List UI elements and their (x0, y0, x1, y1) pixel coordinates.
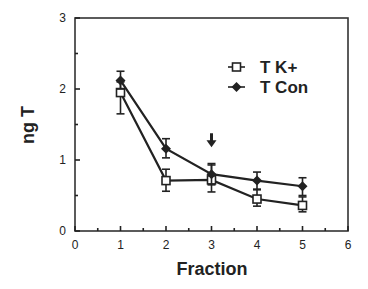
line-chart: 01234560123 T K+T Con Fraction ng T (0, 0, 368, 289)
legend-label: T Con (260, 78, 308, 97)
legend: T K+T Con (228, 58, 308, 97)
x-tick-label: 3 (208, 238, 215, 252)
y-tick-label: 3 (59, 11, 66, 25)
data-point-marker (299, 201, 307, 209)
y-tick-label: 2 (59, 82, 66, 96)
x-tick-label: 1 (117, 238, 124, 252)
legend-marker (232, 82, 242, 92)
x-tick-label: 6 (345, 238, 352, 252)
legend-marker (233, 63, 241, 71)
data-point-marker (298, 181, 308, 191)
x-tick-label: 5 (299, 238, 306, 252)
legend-item: T Con (228, 78, 308, 97)
y-tick-label: 0 (59, 224, 66, 238)
x-tick-label: 2 (163, 238, 170, 252)
annotations (207, 133, 217, 147)
data-point-marker (162, 177, 170, 185)
axis-ticks: 01234560123 (59, 11, 351, 252)
down-arrow-icon (207, 140, 217, 147)
y-axis-title: ng T (18, 106, 38, 144)
x-tick-label: 4 (254, 238, 261, 252)
x-axis-title: Fraction (176, 259, 247, 279)
data-point-marker (252, 176, 262, 186)
chart-container: 01234560123 T K+T Con Fraction ng T (0, 0, 368, 289)
legend-item: T K+ (228, 58, 297, 77)
plot-frame (75, 18, 348, 231)
legend-label: T K+ (260, 58, 297, 77)
data-point-marker (253, 195, 261, 203)
x-tick-label: 0 (72, 238, 79, 252)
plot-border (75, 18, 348, 231)
y-tick-label: 1 (59, 153, 66, 167)
